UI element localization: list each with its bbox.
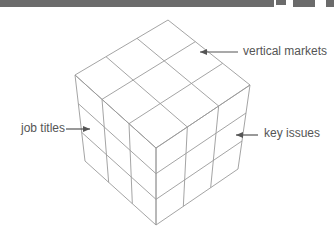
cube-diagram bbox=[0, 0, 334, 236]
label-job-titles: job titles bbox=[21, 121, 65, 135]
label-vertical-markets: vertical markets bbox=[243, 44, 327, 58]
label-key-issues: key issues bbox=[264, 126, 320, 140]
